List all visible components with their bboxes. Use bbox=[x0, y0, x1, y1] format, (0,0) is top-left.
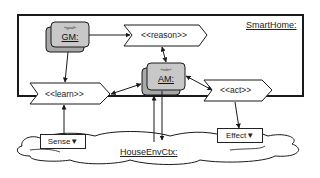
learn-action[interactable]: <<learn>> bbox=[45, 89, 84, 99]
house-env-label: HouseEnvCtx: bbox=[120, 147, 178, 157]
effect-pin[interactable]: Effect▼ bbox=[217, 128, 263, 143]
gm-stereotype: «goal» bbox=[51, 25, 89, 30]
am-stereotype: «role» bbox=[147, 67, 185, 72]
am-label: AM: bbox=[147, 74, 185, 84]
gm-label: GM: bbox=[51, 32, 89, 42]
gm-component[interactable]: «goal» GM: bbox=[51, 22, 89, 47]
am-component[interactable]: «role» AM: bbox=[147, 63, 185, 90]
act-to-effect bbox=[235, 102, 239, 128]
sense-pin[interactable]: Sense▼ bbox=[40, 134, 86, 149]
smarthome-label: SmartHome: bbox=[246, 20, 297, 30]
act-action[interactable]: <<act>> bbox=[220, 85, 251, 95]
reason-action[interactable]: <<reason>> bbox=[141, 30, 187, 40]
